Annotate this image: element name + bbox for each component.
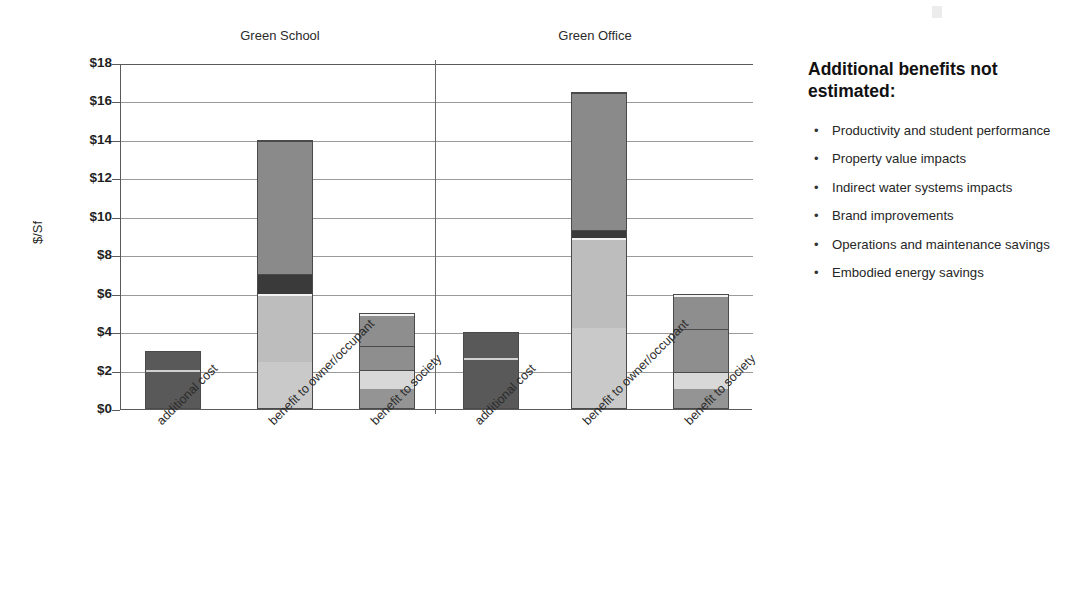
bar-segment-indirect-energy-savings xyxy=(360,346,414,370)
stacked-bar-chart: Green School Green Office $/Sf $18$16$14… xyxy=(0,0,790,595)
y-axis-title: $/Sf xyxy=(30,188,45,278)
y-tick-label: $16 xyxy=(68,93,112,108)
scan-line xyxy=(146,370,200,372)
y-tick-mark xyxy=(112,64,120,65)
bullet-icon: • xyxy=(814,236,819,253)
bullet-icon: • xyxy=(814,264,819,281)
y-tick-label: $2 xyxy=(68,363,112,378)
y-tick-mark xyxy=(112,179,120,180)
benefit-item-label: Property value impacts xyxy=(832,151,966,166)
bullet-icon: • xyxy=(814,207,819,224)
additional-benefits-list: •Productivity and student performance•Pr… xyxy=(808,122,1066,293)
y-tick-label: $4 xyxy=(68,324,112,339)
gridline-14 xyxy=(121,141,753,142)
side-panel-heading: Additional benefits not estimated: xyxy=(808,58,1058,103)
group-title-green-school: Green School xyxy=(130,28,430,43)
benefit-item: •Productivity and student performance xyxy=(808,122,1066,139)
bar-segment-water-savings xyxy=(258,274,312,293)
y-tick-label: $6 xyxy=(68,286,112,301)
gridline-10 xyxy=(121,218,753,219)
bar-green-school-benefit-to-owner-occupant xyxy=(257,140,313,409)
benefit-item-label: Brand improvements xyxy=(832,208,954,223)
benefit-item: •Property value impacts xyxy=(808,150,1066,167)
y-tick-mark xyxy=(112,102,120,103)
y-tick-label: $18 xyxy=(68,55,112,70)
side-panel: Additional benefits not estimated: •Prod… xyxy=(800,0,1068,595)
benefit-item: •Operations and maintenance savings xyxy=(808,236,1066,253)
y-tick-label: $0 xyxy=(68,401,112,416)
bar-segment-energy-savings xyxy=(258,294,312,363)
benefit-item: •Indirect water systems impacts xyxy=(808,179,1066,196)
y-tick-mark xyxy=(112,372,120,373)
bar-segment-health xyxy=(572,93,626,231)
bullet-icon: • xyxy=(814,150,819,167)
bar-segment-energy-savings xyxy=(572,238,626,328)
gridline-6 xyxy=(121,295,753,296)
benefit-item: •Brand improvements xyxy=(808,207,1066,224)
y-axis-tick-labels: $18$16$14$12$10$8$6$4$2$0 xyxy=(62,64,112,410)
bar-segment-health xyxy=(258,141,312,275)
gridline-18 xyxy=(121,64,753,65)
y-tick-mark xyxy=(112,333,120,334)
y-tick-label: $10 xyxy=(68,209,112,224)
y-tick-mark xyxy=(112,410,120,411)
gridline-8 xyxy=(121,256,753,257)
gridline-16 xyxy=(121,102,753,103)
bullet-icon: • xyxy=(814,122,819,139)
bullet-icon: • xyxy=(814,179,819,196)
benefit-item-label: Embodied energy savings xyxy=(832,265,984,280)
benefit-item-label: Indirect water systems impacts xyxy=(832,180,1012,195)
y-tick-label: $12 xyxy=(68,170,112,185)
y-tick-mark xyxy=(112,141,120,142)
benefit-item-label: Operations and maintenance savings xyxy=(832,237,1050,252)
y-tick-mark xyxy=(112,256,120,257)
benefit-item-label: Productivity and student performance xyxy=(832,123,1050,138)
y-tick-mark xyxy=(112,218,120,219)
y-tick-mark xyxy=(112,295,120,296)
scan-line xyxy=(464,358,518,360)
gridline-12 xyxy=(121,179,753,180)
y-tick-label: $14 xyxy=(68,132,112,147)
chart-page: Green School Green Office $/Sf $18$16$14… xyxy=(0,0,1068,595)
group-title-green-office: Green Office xyxy=(445,28,745,43)
bar-segment-water-savings xyxy=(572,230,626,238)
y-tick-label: $8 xyxy=(68,247,112,262)
bar-green-office-benefit-to-owner-occupant xyxy=(571,92,627,409)
benefit-item: •Embodied energy savings xyxy=(808,264,1066,281)
gridline-4 xyxy=(121,333,753,334)
